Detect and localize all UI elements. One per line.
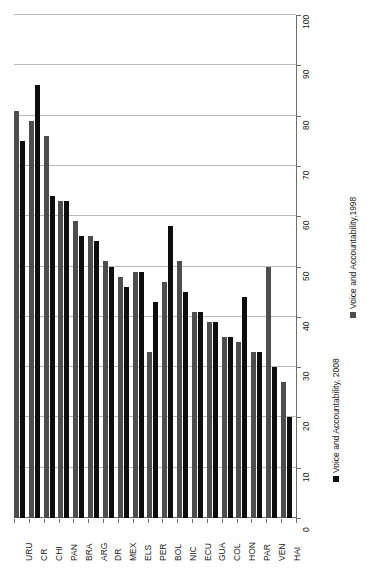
bar-group <box>177 15 192 518</box>
category-axis-label: COL <box>233 544 242 561</box>
value-axis-label: 20 <box>302 422 311 431</box>
legend-label-1998: Voice and Accountability,1998 <box>348 197 358 309</box>
category-axis-tick <box>133 519 134 523</box>
category-axis-tick <box>103 519 104 523</box>
bar-1998 <box>118 277 123 518</box>
bar-1998 <box>266 267 271 519</box>
bar-2008 <box>50 196 55 518</box>
legend-label-2008: Voice and Accountability, 2008 <box>331 358 341 473</box>
bar-groups <box>14 15 296 518</box>
bar-1998 <box>281 382 286 518</box>
bar-1998 <box>236 342 241 518</box>
bar-1998 <box>44 136 49 518</box>
bar-1998 <box>73 221 78 518</box>
bar-1998 <box>192 312 197 518</box>
plot-area <box>14 15 296 518</box>
bar-group <box>133 15 148 518</box>
bar-chart: 0102030405060708090100 URUCRCHIPANBRAARG… <box>0 0 366 569</box>
legend-entry-1998: Voice and Accountability,1998 <box>348 197 358 318</box>
bar-2008 <box>94 241 99 518</box>
value-axis-tick <box>296 367 301 368</box>
bar-group <box>88 15 103 518</box>
category-axis-tick <box>177 519 178 523</box>
category-axis-tick <box>207 519 208 523</box>
bar-group <box>44 15 59 518</box>
category-axis-tick <box>222 519 223 523</box>
bar-group <box>58 15 73 518</box>
category-axis-label: BOL <box>174 544 183 561</box>
category-axis: URUCRCHIPANBRAARGDRMEXELSPERBOLNICECUGUA… <box>14 519 296 569</box>
value-axis-label: 90 <box>302 70 311 79</box>
category-axis-label: URU <box>25 543 34 561</box>
bar-2008 <box>213 322 218 518</box>
bar-1998 <box>207 322 212 518</box>
bar-1998 <box>58 201 63 518</box>
category-axis-label: PAN <box>70 544 79 561</box>
value-axis-tick <box>296 468 301 469</box>
value-axis-label: 10 <box>302 472 311 481</box>
bar-group <box>162 15 177 518</box>
category-axis-tick <box>59 519 60 523</box>
bar-2008 <box>124 287 129 518</box>
category-axis-tick <box>148 519 149 523</box>
value-axis-label: 50 <box>302 271 311 280</box>
bar-1998 <box>177 261 182 518</box>
category-axis-label: HON <box>248 542 257 561</box>
bar-1998 <box>162 282 167 518</box>
bar-group <box>14 15 29 518</box>
bar-1998 <box>222 337 227 518</box>
category-axis-tick <box>73 519 74 523</box>
value-axis-tick <box>296 65 301 66</box>
bar-2008 <box>64 201 69 518</box>
category-axis-label: VEN <box>278 544 287 561</box>
bar-1998 <box>251 352 256 518</box>
category-axis-tick <box>266 519 267 523</box>
category-axis-label: ELS <box>144 545 153 561</box>
value-axis-label: 40 <box>302 321 311 330</box>
category-axis-label: NIC <box>189 546 198 561</box>
bar-group <box>266 15 281 518</box>
category-axis-label: PAR <box>263 544 272 561</box>
bar-2008 <box>287 417 292 518</box>
value-axis-label: 70 <box>302 170 311 179</box>
bar-2008 <box>242 297 247 518</box>
category-axis-label: ARG <box>100 543 109 561</box>
bar-group <box>103 15 118 518</box>
value-axis-label: 60 <box>302 221 311 230</box>
value-axis-tick <box>296 317 301 318</box>
bar-1998 <box>103 261 108 518</box>
bar-group <box>73 15 88 518</box>
category-axis-label: BRA <box>85 544 94 561</box>
bar-1998 <box>14 111 19 518</box>
bar-2008 <box>153 302 158 518</box>
bar-group <box>118 15 133 518</box>
bar-2008 <box>79 236 84 518</box>
legend-swatch-icon-2008 <box>333 476 339 482</box>
bar-2008 <box>20 141 25 518</box>
value-axis-tick <box>296 417 301 418</box>
bar-group <box>147 15 162 518</box>
bar-2008 <box>198 312 203 518</box>
value-axis-label: 0 <box>302 527 311 532</box>
category-axis-tick <box>29 519 30 523</box>
category-axis-label: HAI <box>293 547 302 561</box>
category-axis-tick <box>162 519 163 523</box>
value-axis-tick <box>296 216 301 217</box>
category-axis-label: GUA <box>218 543 227 561</box>
legend-entry-2008: Voice and Accountability, 2008 <box>331 358 341 482</box>
bar-group <box>29 15 44 518</box>
bar-1998 <box>147 352 152 518</box>
category-axis-label: CHI <box>55 546 64 561</box>
bar-2008 <box>272 367 277 518</box>
value-axis-tick <box>296 166 301 167</box>
bar-2008 <box>183 292 188 518</box>
category-axis-tick <box>44 519 45 523</box>
bar-2008 <box>35 85 40 518</box>
value-axis: 0102030405060708090100 <box>296 0 310 569</box>
value-axis-label: 100 <box>302 15 311 29</box>
category-axis-label: MEX <box>129 543 138 561</box>
bar-2008 <box>109 267 114 519</box>
category-axis-tick <box>192 519 193 523</box>
category-axis-tick <box>118 519 119 523</box>
category-axis-label: PER <box>159 544 168 561</box>
